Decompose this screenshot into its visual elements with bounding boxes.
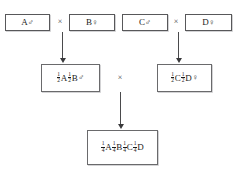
f1-box-ab: 1 2 A 1 2 B ♂: [41, 64, 100, 92]
fraction-denominator: 4: [112, 147, 116, 154]
arrow-down-left: [57, 32, 68, 63]
fraction-term-a: 1 2 A: [57, 72, 68, 85]
parent-label-b: B♀: [86, 18, 98, 27]
parent-box-a: A♂: [5, 14, 50, 31]
fraction-one-half-c: 1 2: [171, 72, 175, 85]
parent-box-b: B♀: [69, 14, 115, 31]
fraction-term-c: 1 4 C: [123, 141, 133, 154]
allele-letter: D: [137, 143, 144, 152]
arrow-shaft: [62, 32, 63, 58]
fraction-one-quarter-c: 1 4: [123, 141, 127, 154]
allele-letter: B: [116, 143, 122, 152]
fraction-term-d: 1 4 D: [133, 141, 144, 154]
fraction-one-half-d: 1 2: [181, 72, 185, 85]
f1-label-ab: 1 2 A 1 2 B ♂: [57, 72, 85, 85]
parent-label-a: A♂: [21, 18, 34, 27]
cross-symbol-top-right: ×: [170, 18, 182, 26]
fraction-denominator: 4: [101, 147, 105, 154]
fraction-one-half-b: 1 2: [68, 72, 72, 85]
fraction-denominator: 4: [123, 147, 127, 154]
f1-box-cd: 1 2 C 1 2 D ♀: [157, 64, 212, 92]
arrow-down-center: [115, 92, 126, 129]
parent-label-d: D♀: [202, 18, 215, 27]
fraction-one-half-a: 1 2: [57, 72, 61, 85]
arrow-head: [176, 58, 182, 63]
allele-letter: B: [72, 74, 78, 83]
arrow-shaft: [178, 32, 179, 58]
arrow-head: [60, 58, 66, 63]
fraction-denominator: 2: [171, 77, 175, 84]
male-symbol-f1-ab: ♂: [78, 74, 84, 82]
f1-label-cd: 1 2 C 1 2 D ♀: [171, 72, 199, 85]
cross-symbol-center: ×: [114, 74, 126, 82]
parent-box-d: D♀: [185, 14, 232, 31]
parent-box-c: C♂: [122, 14, 168, 31]
fraction-denominator: 2: [181, 77, 185, 84]
allele-letter: A: [61, 74, 68, 83]
male-symbol-a: ♂: [28, 19, 34, 27]
allele-letter: C: [127, 143, 133, 152]
fraction-one-quarter-d: 1 4: [133, 141, 137, 154]
female-symbol-d: ♀: [209, 19, 215, 27]
fraction-one-quarter-a: 1 4: [101, 141, 105, 154]
fraction-term-c: 1 2 C: [171, 72, 181, 85]
fraction-term-b: 1 2 B: [68, 72, 78, 85]
f2-box-abcd: 1 4 A 1 4 B 1 4 C 1 4 D: [87, 130, 158, 165]
fraction-term-d: 1 2 D: [181, 72, 192, 85]
female-symbol-b: ♀: [92, 19, 98, 27]
fraction-denominator: 2: [57, 77, 61, 84]
fraction-denominator: 2: [68, 77, 72, 84]
parent-label-c: C♂: [139, 18, 151, 27]
fraction-term-a: 1 4 A: [101, 141, 112, 154]
arrow-head: [118, 124, 124, 129]
arrow-down-right: [173, 32, 184, 63]
cross-symbol-top-left: ×: [54, 18, 66, 26]
fraction-denominator: 4: [133, 147, 137, 154]
breeding-cross-diagram: A♂ × B♀ C♂ × D♀ 1 2 A: [0, 0, 237, 171]
fraction-term-b: 1 4 B: [112, 141, 122, 154]
fraction-one-quarter-b: 1 4: [112, 141, 116, 154]
female-symbol-f1-cd: ♀: [192, 74, 198, 82]
arrow-shaft: [120, 92, 121, 124]
allele-letter: A: [105, 143, 112, 152]
male-symbol-c: ♂: [145, 19, 151, 27]
allele-letter: C: [175, 74, 181, 83]
f2-label-abcd: 1 4 A 1 4 B 1 4 C 1 4 D: [101, 141, 144, 154]
allele-letter: D: [185, 74, 192, 83]
